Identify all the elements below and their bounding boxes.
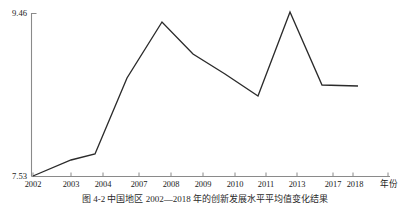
figure-caption: 图 4-2 中国地区 2002—2018 年的创新发展水平平均值变化结果 (0, 193, 410, 203)
figure-container: 9.46 7.53 2002 2003 2004 2007 2008 2009 … (0, 0, 410, 203)
x-tick-label-2010: 2010 (227, 180, 244, 189)
data-series-line (33, 12, 358, 176)
x-axis-ticks (33, 173, 388, 177)
x-tick-label-2009: 2009 (195, 180, 212, 189)
x-tick-label-2008: 2008 (163, 180, 180, 189)
x-tick-label-2002: 2002 (25, 180, 42, 189)
x-tick-label-2007: 2007 (131, 180, 148, 189)
x-tick-label-2013: 2013 (289, 180, 306, 189)
x-tick-label-2003: 2003 (63, 180, 80, 189)
line-chart: 9.46 7.53 2002 2003 2004 2007 2008 2009 … (0, 0, 410, 203)
y-tick-label-max: 9.46 (12, 8, 28, 18)
x-tick-label-2011: 2011 (258, 180, 274, 189)
x-tick-label-2018: 2018 (347, 180, 364, 189)
x-axis-title: 年份 (380, 178, 398, 189)
x-tick-label-2004: 2004 (95, 180, 113, 189)
x-tick-label-2017: 2017 (325, 180, 342, 189)
